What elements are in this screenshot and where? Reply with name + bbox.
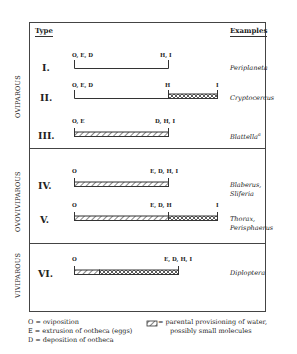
row6-mid-label: E, D, H, I (164, 256, 192, 262)
legend-item-d: D = deposition of ootheca (28, 336, 114, 345)
type-IV: IV. (38, 180, 51, 191)
row3-example-footnote: a (258, 131, 261, 137)
row2-example: Cryptocercus (230, 94, 274, 103)
row4-mid-label: E, D, H, I (150, 168, 178, 174)
type-III: III. (38, 130, 55, 141)
row6-example: Diploptera (230, 269, 265, 278)
legend-key-d: D = (28, 336, 41, 344)
legend-text-e: extrusion of ootheca (eggs) (42, 327, 132, 335)
timeline-bars (0, 0, 297, 354)
row5-left-label: O (72, 202, 77, 208)
row5-mid-label: E, D, H (150, 202, 172, 208)
row2-left-label: O, E, D (72, 82, 93, 88)
legend-key-o: O = (28, 318, 41, 326)
row3-left-label: O, E (72, 118, 85, 124)
row4-example2: Sliferia (230, 190, 254, 199)
type-V: V. (40, 214, 49, 225)
row4-example: Blaberus, (230, 181, 261, 190)
row3-example: Blattellaa (230, 130, 261, 142)
type-II: II. (40, 92, 52, 103)
row1-left-label: O, E, D (72, 52, 93, 58)
row2-mid-label: H (165, 82, 170, 88)
row6-left-label: O (72, 256, 77, 262)
type-I: I. (42, 62, 50, 73)
row1-mid-label: H, I (160, 52, 172, 58)
type-VI: VI. (38, 268, 53, 279)
legend-text-d: deposition of ootheca (43, 336, 114, 344)
row3-mid-label: D, H, I (155, 118, 175, 124)
row5-end-label: I (216, 202, 219, 208)
legend-key-e: E = (28, 327, 40, 335)
row4-left-label: O (72, 168, 77, 174)
hatch-swatch-icon (147, 321, 157, 326)
row5-example2: Perisphaerus (230, 224, 273, 233)
row5-example: Thorax, (230, 215, 255, 224)
row3-example-text: Blattella (230, 133, 258, 141)
row2-end-label: I (216, 82, 219, 88)
legend-item-o: O = oviposition (28, 318, 79, 327)
legend-item-e: E = extrusion of ootheca (eggs) (28, 327, 132, 336)
legend-hatch-text2: possibly small molecules (170, 327, 252, 336)
legend-text-o: oviposition (43, 318, 79, 326)
row1-example: Periplaneta (230, 64, 268, 73)
legend-hatch-text: = parental provisioning of water, (158, 318, 267, 327)
